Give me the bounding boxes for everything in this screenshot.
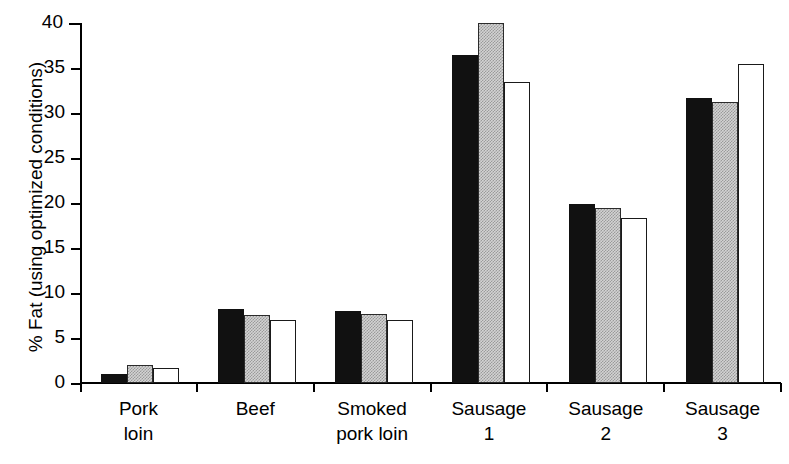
x-axis-category-label-6: Sausage 3 <box>664 396 781 446</box>
y-tick-0: 0 <box>71 383 80 385</box>
bar-1-3 <box>153 368 179 383</box>
bar-5-3 <box>621 218 647 383</box>
x-tick-4 <box>546 383 548 392</box>
bar-5-2 <box>595 208 621 384</box>
y-tick-15: 15 <box>71 248 80 250</box>
bar-2-2 <box>244 315 270 383</box>
plot-area: 4035302520151050 <box>80 23 781 383</box>
y-tick-5: 5 <box>71 338 80 340</box>
bar-2-1 <box>218 309 244 383</box>
y-tick-label-25: 25 <box>44 147 65 167</box>
x-tick-0 <box>80 383 82 392</box>
y-tick-30: 30 <box>71 113 80 115</box>
bar-group-6 <box>664 23 781 383</box>
bar-4-3 <box>504 82 530 383</box>
x-axis-category-label-2: Beef <box>197 396 314 421</box>
y-tick-label-5: 5 <box>54 327 65 347</box>
y-tick-label-30: 30 <box>44 102 65 122</box>
y-tick-label-40: 40 <box>42 12 63 32</box>
bar-group-5 <box>547 23 664 383</box>
bar-1-2 <box>127 365 153 383</box>
bar-4-1 <box>452 55 478 384</box>
bar-4-2 <box>478 23 504 383</box>
y-tick-40: 40 <box>69 23 80 25</box>
y-tick-20: 20 <box>71 203 80 205</box>
x-tick-5 <box>663 383 665 392</box>
bar-6-1 <box>686 98 712 383</box>
bar-3-1 <box>335 311 361 383</box>
bar-group-2 <box>197 23 314 383</box>
x-axis-category-label-4: Sausage 1 <box>431 396 548 446</box>
y-tick-label-20: 20 <box>44 192 65 212</box>
x-tick-3 <box>430 383 432 392</box>
bar-1-1 <box>101 374 127 383</box>
bar-6-3 <box>738 64 764 384</box>
x-axis-category-label-5: Sausage 2 <box>547 396 664 446</box>
x-tick-1 <box>196 383 198 392</box>
bar-group-4 <box>431 23 548 383</box>
bar-group-1 <box>80 23 197 383</box>
y-tick-label-0: 0 <box>54 372 65 392</box>
bar-chart-figure: % Fat (using optimized conditions) 40353… <box>0 0 789 464</box>
x-axis-category-label-1: Pork loin <box>80 396 197 446</box>
y-tick-label-15: 15 <box>44 237 65 257</box>
y-tick-10: 10 <box>71 293 80 295</box>
bar-5-1 <box>569 204 595 383</box>
x-tick-2 <box>313 383 315 392</box>
y-tick-label-35: 35 <box>44 57 65 77</box>
bar-6-2 <box>712 102 738 383</box>
bar-group-3 <box>314 23 431 383</box>
y-tick-label-10: 10 <box>44 282 65 302</box>
y-tick-35: 35 <box>71 68 80 70</box>
y-tick-25: 25 <box>71 158 80 160</box>
bar-2-3 <box>270 320 296 383</box>
x-axis-category-label-3: Smoked pork loin <box>314 396 431 446</box>
bar-3-3 <box>387 320 413 383</box>
bar-3-2 <box>361 314 387 383</box>
x-tick-6 <box>780 383 782 392</box>
